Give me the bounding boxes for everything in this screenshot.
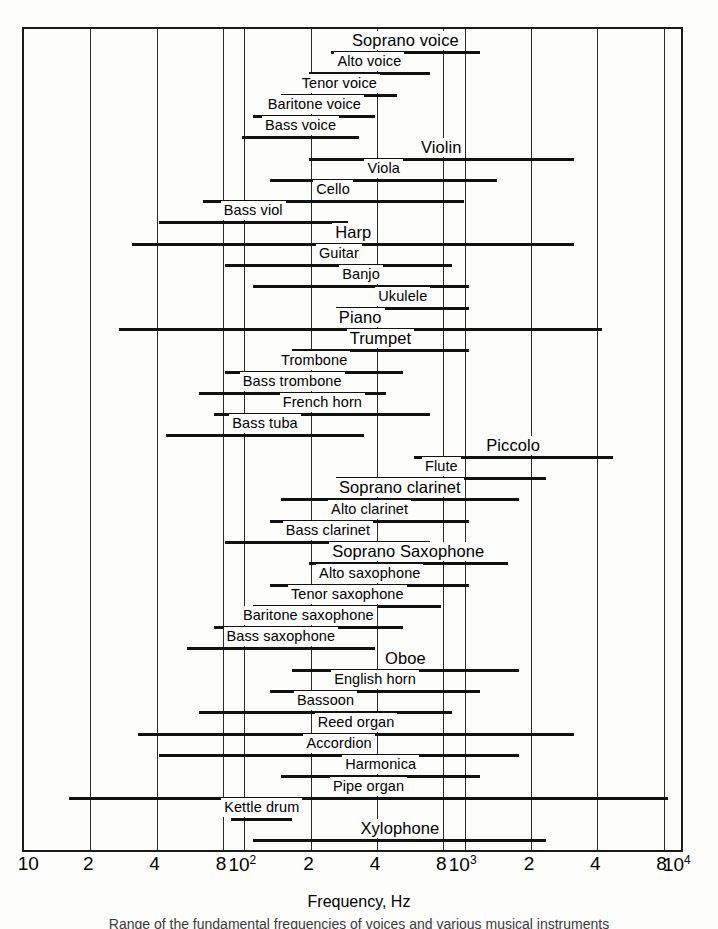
range-label: Kettle drum <box>221 798 302 817</box>
frequency-range-chart: Soprano voiceAlto voiceTenor voiceBarito… <box>0 0 718 929</box>
range-label: Harmonica <box>342 755 419 774</box>
range-label: Pipe organ <box>330 777 407 796</box>
range-label: Bassoon <box>294 691 357 710</box>
range-label: Banjo <box>339 265 383 284</box>
range-label: Alto saxophone <box>316 564 423 583</box>
range-label: Baritone saxophone <box>240 606 377 625</box>
range-label: Trumpet <box>347 329 415 348</box>
x-tick-100: 102 <box>228 853 256 876</box>
x-tick-40: 4 <box>149 853 160 875</box>
range-label: Viola <box>364 159 402 178</box>
range-label: Bass trombone <box>240 372 345 391</box>
range-label: Oboe <box>382 649 429 668</box>
x-tick-2000: 2 <box>524 853 535 875</box>
x-tick-800: 8 <box>436 853 447 875</box>
range-label: Tenor saxophone <box>288 585 407 604</box>
range-label: Reed organ <box>315 713 398 732</box>
x-tick-10: 10 <box>18 853 39 875</box>
x-tick-1000: 103 <box>449 853 477 876</box>
range-label: French horn <box>280 393 365 412</box>
x-tick-4000: 4 <box>590 853 601 875</box>
x-tick-20: 2 <box>83 853 94 875</box>
range-label: Piano <box>336 308 385 327</box>
range-label: Piccolo <box>483 436 543 455</box>
range-label: Bass saxophone <box>224 627 339 646</box>
figure-caption: Range of the fundamental frequencies of … <box>0 916 718 929</box>
range-label: Violin <box>418 138 465 157</box>
range-row: Xylophone <box>24 820 681 844</box>
range-label: English horn <box>331 670 419 689</box>
range-label: Tenor voice <box>299 74 380 93</box>
range-label: Soprano Saxophone <box>329 542 487 561</box>
range-label: Soprano voice <box>349 31 462 50</box>
range-label: Xylophone <box>357 819 442 838</box>
range-label: Cello <box>313 180 353 199</box>
range-label: Flute <box>422 457 461 476</box>
x-tick-200: 2 <box>303 853 314 875</box>
range-label: Bass viol <box>221 201 286 220</box>
x-tick-10000: 104 <box>663 853 691 876</box>
range-bar <box>253 839 546 842</box>
x-axis-title: Frequency, Hz <box>0 893 718 911</box>
x-tick-80: 8 <box>216 853 227 875</box>
range-label: Bass tuba <box>229 414 300 433</box>
range-label: Trombone <box>278 351 350 370</box>
range-label: Ukulele <box>375 287 430 306</box>
range-label: Alto clarinet <box>328 500 411 519</box>
x-axis-tick-labels: 10248102248103248104 <box>0 853 718 883</box>
range-label: Soprano clarinet <box>336 478 464 497</box>
range-label: Bass clarinet <box>283 521 373 540</box>
range-label: Alto voice <box>334 52 404 71</box>
range-label: Accordion <box>303 734 374 753</box>
range-label: Baritone voice <box>265 95 364 114</box>
range-label: Harp <box>332 223 374 242</box>
plot-area: Soprano voiceAlto voiceTenor voiceBarito… <box>22 27 683 852</box>
range-label: Bass voice <box>262 116 339 135</box>
range-label: Guitar <box>316 244 362 263</box>
x-tick-400: 4 <box>370 853 381 875</box>
